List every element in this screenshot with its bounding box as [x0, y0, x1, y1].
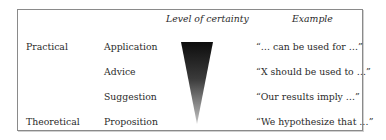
- row-type-proposition: Proposition: [104, 117, 158, 126]
- certainty-triangle-icon: [181, 42, 213, 124]
- example-suggestion: “Our results imply …”: [256, 92, 360, 101]
- row-type-suggestion: Suggestion: [104, 92, 157, 101]
- category-practical: Practical: [26, 42, 68, 51]
- row-type-advice: Advice: [104, 67, 136, 76]
- header-level-of-certainty: Level of certainty: [166, 14, 249, 23]
- example-advice: “X should be used to …”: [256, 67, 371, 76]
- row-type-application: Application: [104, 42, 158, 51]
- example-application: “… can be used for …”: [256, 42, 363, 51]
- example-proposition: “We hypothesize that …”: [256, 117, 373, 126]
- category-theoretical: Theoretical: [26, 117, 80, 126]
- header-example: Example: [292, 14, 333, 23]
